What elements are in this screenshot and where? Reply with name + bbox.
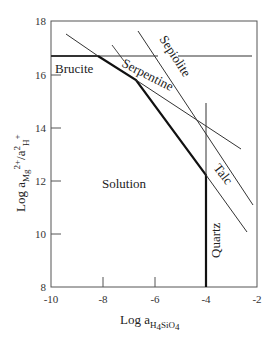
- x-tick-labels: -10 -8 -6 -4 -2: [44, 293, 262, 305]
- y-tick-12: 12: [35, 175, 46, 187]
- x-tick-neg2: -2: [252, 293, 261, 305]
- serpentine-talc-line: [136, 80, 241, 149]
- stability-diagram: 8 10 12 14 16 18 -10 -8 -6 -4 -2 Log aH4…: [0, 0, 271, 340]
- y-tick-16: 16: [35, 69, 47, 81]
- y-axis-label: Log aMg2+/a2H+: [12, 134, 31, 212]
- x-tick-neg6: -6: [150, 293, 160, 305]
- serpentine-leader-line: [112, 45, 124, 61]
- y-tick-14: 14: [35, 122, 47, 134]
- sepiolite-line: [138, 31, 253, 205]
- brucite-serpentine-extension-line: [66, 34, 98, 56]
- x-tick-neg8: -8: [98, 293, 108, 305]
- y-tick-labels: 8 10 12 14 16 18: [35, 15, 47, 293]
- talc-label: Talc: [211, 161, 237, 188]
- y-tick-8: 8: [41, 281, 47, 293]
- y-axis-ticks: [51, 75, 61, 234]
- brucite-label: Brucite: [55, 61, 93, 76]
- solution-label: Solution: [102, 176, 147, 191]
- y-tick-10: 10: [35, 228, 47, 240]
- x-tick-neg10: -10: [44, 293, 59, 305]
- quartz-label: Quartz: [208, 222, 223, 258]
- x-tick-neg4: -4: [201, 293, 211, 305]
- x-axis-label: Log aH4SiO4: [120, 312, 180, 332]
- x-axis-ticks: [103, 277, 155, 287]
- y-tick-18: 18: [35, 15, 47, 27]
